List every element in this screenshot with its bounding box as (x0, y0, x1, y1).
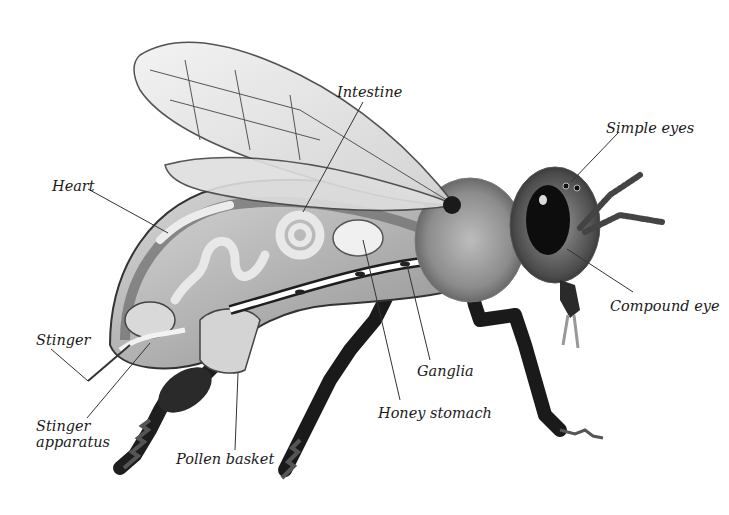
label-intestine: Intestine (337, 84, 402, 100)
head (510, 167, 662, 348)
simple-eye-1 (563, 183, 569, 189)
leader-line-simple-eyes (571, 133, 618, 182)
wing-joint (443, 196, 461, 214)
leader-line-stinger (51, 349, 88, 381)
stinger-organ (88, 345, 130, 381)
leader-line-pollen-basket (235, 373, 238, 450)
middle-leg (282, 290, 390, 478)
simple-eye-2 (574, 185, 580, 191)
wings (134, 42, 461, 214)
label-pollen-basket: Pollen basket (176, 451, 274, 467)
bee-anatomy-diagram: Intestine Simple eyes Heart Compound eye… (0, 0, 729, 515)
label-ganglia: Ganglia (417, 363, 474, 379)
label-honey-stomach: Honey stomach (378, 405, 492, 421)
label-compound-eye: Compound eye (610, 298, 720, 314)
label-stinger: Stinger (36, 332, 91, 348)
label-heart: Heart (52, 178, 95, 194)
label-stinger-apparatus: Stinger apparatus (36, 418, 110, 450)
leader-line-heart (88, 189, 168, 233)
compound-eye-organ (526, 185, 570, 255)
honey-stomach-organ (333, 220, 383, 256)
pollen-basket-organ (200, 309, 260, 373)
mouthparts (560, 280, 580, 318)
label-simple-eyes: Simple eyes (606, 120, 694, 136)
